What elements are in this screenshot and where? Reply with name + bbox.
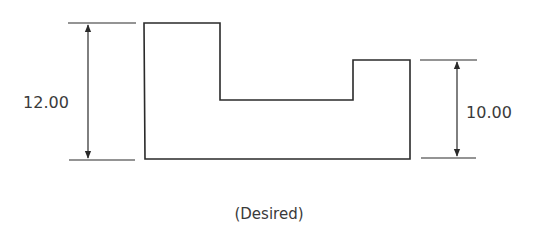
- left-dimension-label: 12.00: [23, 93, 69, 112]
- right-dimension: 10.00: [420, 60, 512, 158]
- profile-outline: [144, 23, 410, 159]
- stepped-profile-diagram: 12.00 10.00 (Desired): [0, 0, 538, 240]
- caption: (Desired): [234, 205, 303, 223]
- left-dimension: 12.00: [23, 23, 136, 160]
- right-dimension-label: 10.00: [466, 103, 512, 122]
